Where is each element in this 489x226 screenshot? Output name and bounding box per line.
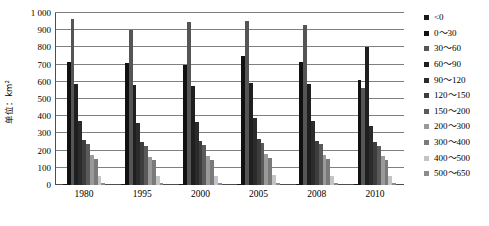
legend-item[interactable]: 0～30	[424, 26, 488, 42]
bar	[101, 183, 105, 185]
bar-group-bars	[63, 13, 105, 185]
legend-swatch-icon	[424, 156, 429, 161]
legend-swatch-icon	[424, 171, 429, 176]
bar	[392, 183, 396, 185]
y-axis-tick-label: 400	[38, 112, 52, 121]
legend-swatch-icon	[424, 46, 429, 51]
legend-item[interactable]: 500～650	[424, 166, 488, 182]
bar	[334, 183, 338, 185]
legend-swatch-icon	[424, 31, 429, 36]
legend-item-label: 30～60	[434, 44, 461, 53]
bar-group: 2000	[171, 13, 229, 185]
legend-item-label: 150～200	[434, 107, 470, 116]
bar	[218, 183, 222, 185]
y-axis-tick-label: 200	[38, 146, 52, 155]
plot-area: 1 0009008007006005004003002001000 198019…	[55, 13, 404, 185]
bar	[160, 183, 164, 185]
legend: <00～3030～6060～9090～120120～150150～200200～…	[424, 10, 488, 182]
bar-group-bars	[354, 13, 396, 185]
legend-swatch-icon	[424, 78, 429, 83]
legend-item-label: 0～30	[434, 29, 457, 38]
x-axis-tick-label: 1995	[113, 189, 171, 199]
x-axis-tick-label: 2000	[171, 189, 229, 199]
legend-item[interactable]: 150～200	[424, 104, 488, 120]
bar-group: 1980	[55, 13, 113, 185]
y-axis-tick-label: 700	[38, 60, 52, 69]
x-axis-tick-label: 1980	[55, 189, 113, 199]
legend-swatch-icon	[424, 15, 429, 20]
legend-item[interactable]: 300～400	[424, 135, 488, 151]
x-axis-tick-label: 2008	[288, 189, 346, 199]
y-axis-tick-label: 800	[38, 43, 52, 52]
legend-item[interactable]: 60～90	[424, 57, 488, 73]
legend-item[interactable]: 200～300	[424, 119, 488, 135]
legend-item[interactable]: 90～120	[424, 72, 488, 88]
legend-swatch-icon	[424, 124, 429, 129]
legend-swatch-icon	[424, 93, 429, 98]
y-axis-tick-label: 900	[38, 26, 52, 35]
legend-item[interactable]: 120～150	[424, 88, 488, 104]
y-axis-tick-label: 600	[38, 77, 52, 86]
bar-chart: 单位：km² 1 0009008007006005004003002001000…	[0, 0, 489, 226]
bar-group-bars	[296, 13, 338, 185]
legend-item[interactable]: 30～60	[424, 41, 488, 57]
x-axis-tick-label: 2010	[346, 189, 404, 199]
bar-group-bars	[179, 13, 221, 185]
legend-item[interactable]: <0	[424, 10, 488, 26]
y-axis-tick-label: 300	[38, 129, 52, 138]
legend-item-label: 200～300	[434, 122, 470, 131]
legend-swatch-icon	[424, 109, 429, 114]
y-axis-tick-label: 0	[47, 181, 52, 190]
legend-item-label: 90～120	[434, 76, 466, 85]
y-axis-tick-label: 100	[38, 163, 52, 172]
bar-groups: 198019952000200520082010	[55, 13, 404, 185]
legend-item-label: 60～90	[434, 60, 461, 69]
y-axis-title: 单位：km²	[2, 67, 14, 137]
bar-group-bars	[237, 13, 279, 185]
legend-item[interactable]: 400～500	[424, 150, 488, 166]
legend-item-label: 120～150	[434, 91, 470, 100]
x-axis-tick-label: 2005	[230, 189, 288, 199]
bar-group: 2008	[288, 13, 346, 185]
bar-group-bars	[121, 13, 163, 185]
legend-item-label: <0	[434, 13, 444, 22]
legend-item-label: 400～500	[434, 154, 470, 163]
legend-swatch-icon	[424, 140, 429, 145]
legend-item-label: 500～650	[434, 169, 470, 178]
bar	[276, 183, 280, 185]
y-axis-tick-label: 1 000	[31, 9, 51, 18]
bar-group: 1995	[113, 13, 171, 185]
bar-group: 2005	[230, 13, 288, 185]
legend-swatch-icon	[424, 62, 429, 67]
bar-group: 2010	[346, 13, 404, 185]
legend-item-label: 300～400	[434, 138, 470, 147]
y-axis-tick-label: 500	[38, 95, 52, 104]
